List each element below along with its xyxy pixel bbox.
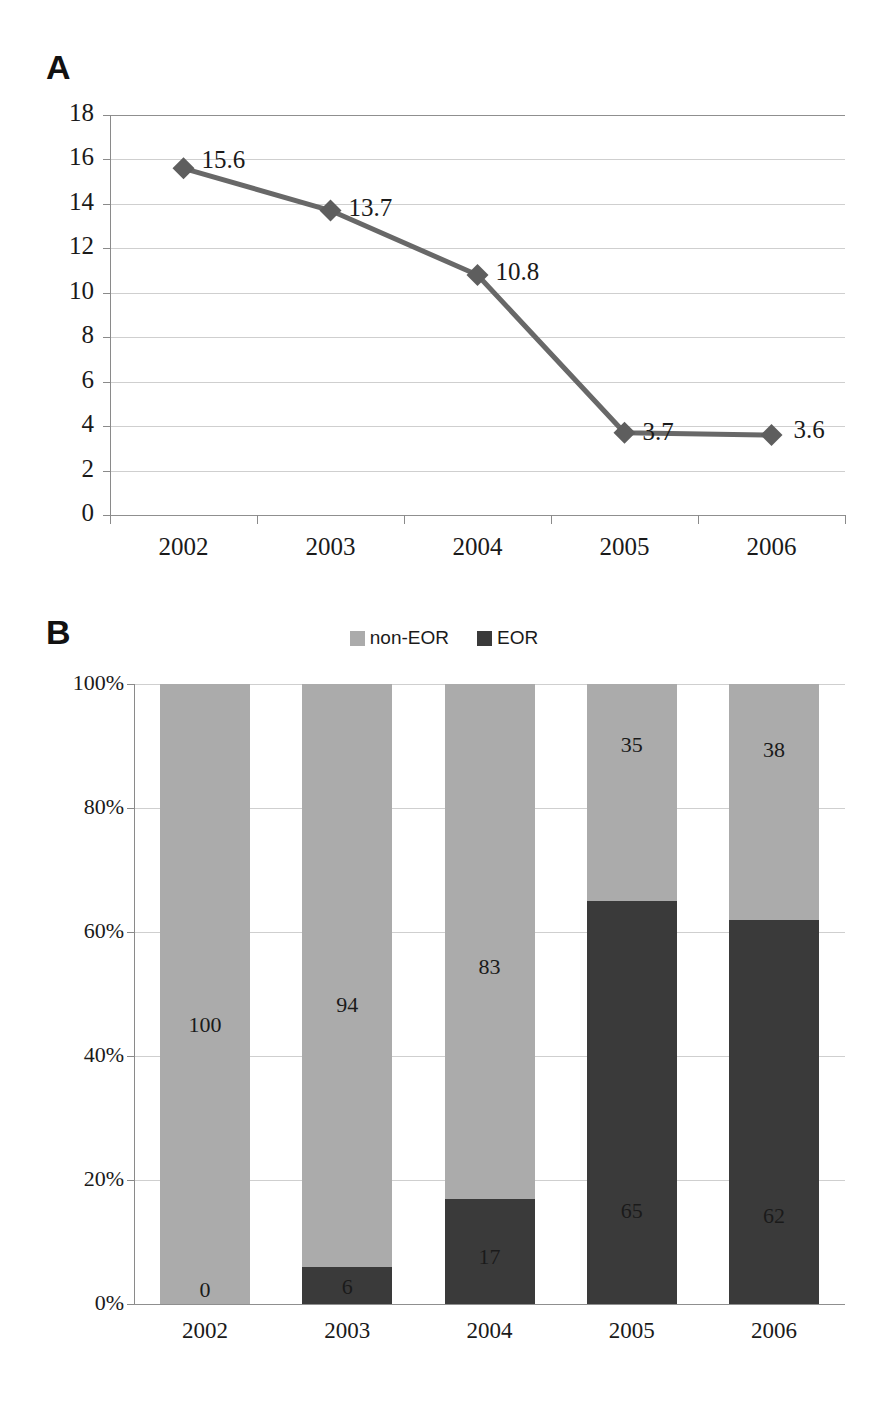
panel-a-polyline (184, 168, 772, 435)
panel-a-letter: A (46, 48, 71, 87)
legend-item-non-eor: non-EOR (350, 627, 449, 649)
panel-b-y-tick-label: 100% (38, 670, 124, 696)
panel-b-gridline (134, 1304, 845, 1305)
panel-b-y-tick-mark (127, 1304, 134, 1305)
panel-b-y-tick-label: 40% (38, 1042, 124, 1068)
panel-b-y-tick-label: 0% (38, 1290, 124, 1316)
panel-a-point-label: 15.6 (202, 146, 246, 174)
panel-a-y-tick-mark (103, 293, 110, 294)
legend-swatch-non-eor (350, 631, 365, 646)
panel-a-x-tick-label: 2003 (251, 533, 411, 561)
panel-a-y-tick-mark (103, 515, 110, 516)
legend-swatch-eor (477, 631, 492, 646)
panel-b-label-eor: 65 (587, 1198, 677, 1224)
panel-b-legend: non-EOR EOR (0, 627, 888, 649)
panel-a-y-tick-label: 8 (32, 321, 94, 349)
panel-b-segment-non-eor[interactable] (587, 684, 677, 901)
panel-a-y-tick-mark (103, 382, 110, 383)
panel-b-y-tick-mark (127, 932, 134, 933)
panel-b-y-tick-label: 80% (38, 794, 124, 820)
panel-a-y-tick-label: 0 (32, 499, 94, 527)
panel-a-x-tick-mark (404, 515, 405, 524)
panel-b-y-tick-mark (127, 1056, 134, 1057)
panel-b-segment-non-eor[interactable] (160, 684, 250, 1304)
panel-a-y-tick-label: 16 (32, 143, 94, 171)
legend-label-non-eor: non-EOR (370, 627, 449, 649)
panel-b-label-non-eor: 38 (729, 737, 819, 763)
panel-b-label-eor: 17 (445, 1244, 535, 1270)
panel-a-data-point-marker (320, 200, 342, 222)
panel-b-y-tick-mark (127, 684, 134, 685)
panel-b-label-eor: 0 (160, 1277, 250, 1303)
panel-a-x-tick-mark (845, 515, 846, 524)
panel-a-y-tick-label: 4 (32, 410, 94, 438)
panel-b-label-non-eor: 83 (445, 954, 535, 980)
panel-b-segment-non-eor[interactable] (729, 684, 819, 920)
panel-a-point-label: 3.6 (794, 416, 825, 444)
panel-a-x-tick-label: 2004 (398, 533, 558, 561)
panel-a-x-tick-mark (698, 515, 699, 524)
panel-a-y-tick-mark (103, 337, 110, 338)
panel-a-x-tick-label: 2005 (545, 533, 705, 561)
panel-b-label-non-eor: 35 (587, 732, 677, 758)
panel-b-x-tick-label: 2002 (134, 1318, 276, 1344)
panel-a-line-chart: A Time (h) 024681012141618 15.613.710.83… (0, 0, 888, 595)
panel-b-segment-eor[interactable] (729, 920, 819, 1304)
panel-b-bar-column[interactable]: 1000 (160, 684, 250, 1304)
panel-a-data-point-marker (761, 424, 783, 446)
panel-a-x-tick-mark (110, 515, 111, 524)
legend-label-eor: EOR (497, 627, 538, 649)
panel-b-x-tick-label: 2005 (561, 1318, 703, 1344)
panel-b-label-eor: 6 (302, 1274, 392, 1300)
legend-item-eor: EOR (477, 627, 538, 649)
panel-a-y-tick-label: 14 (32, 188, 94, 216)
panel-b-label-non-eor: 94 (302, 992, 392, 1018)
panel-b-y-axis-line (134, 684, 135, 1304)
panel-b-y-tick-label: 60% (38, 918, 124, 944)
panel-b-bar-column[interactable]: 3565 (587, 684, 677, 1304)
panel-a-data-point-marker (173, 157, 195, 179)
panel-a-y-tick-label: 18 (32, 99, 94, 127)
panel-a-y-tick-label: 12 (32, 232, 94, 260)
panel-a-point-label: 13.7 (349, 194, 393, 222)
panel-a-series-time (110, 115, 845, 515)
panel-b-y-tick-mark (127, 1180, 134, 1181)
panel-a-y-tick-mark (103, 426, 110, 427)
panel-b-x-tick-label: 2003 (276, 1318, 418, 1344)
panel-b-plot-area: 1000946831735653862 (134, 684, 845, 1304)
panel-a-y-tick-mark (103, 159, 110, 160)
panel-a-y-tick-mark (103, 471, 110, 472)
panel-a-y-tick-label: 2 (32, 455, 94, 483)
panel-a-y-tick-mark (103, 115, 110, 116)
panel-a-y-tick-mark (103, 204, 110, 205)
panel-b-label-eor: 62 (729, 1203, 819, 1229)
panel-a-x-tick-label: 2006 (692, 533, 852, 561)
panel-a-x-tick-mark (257, 515, 258, 524)
panel-b-x-tick-label: 2006 (703, 1318, 845, 1344)
panel-b-segment-eor[interactable] (587, 901, 677, 1304)
panel-b-label-non-eor: 100 (160, 1012, 250, 1038)
panel-b-bar-column[interactable]: 3862 (729, 684, 819, 1304)
panel-a-x-tick-mark (551, 515, 552, 524)
panel-b-stacked-bar-chart: B non-EOR EOR % Fontan patients 10009468… (0, 595, 888, 1415)
panel-b-x-tick-label: 2004 (419, 1318, 561, 1344)
panel-a-y-tick-mark (103, 248, 110, 249)
panel-a-x-tick-label: 2002 (104, 533, 264, 561)
panel-b-segment-non-eor[interactable] (445, 684, 535, 1199)
panel-b-segment-non-eor[interactable] (302, 684, 392, 1267)
panel-a-gridline (110, 515, 845, 516)
panel-a-point-label: 10.8 (496, 258, 540, 286)
panel-a-y-tick-label: 10 (32, 277, 94, 305)
panel-b-y-tick-mark (127, 808, 134, 809)
panel-a-point-label: 3.7 (643, 418, 674, 446)
panel-b-y-tick-label: 20% (38, 1166, 124, 1192)
panel-a-y-tick-label: 6 (32, 366, 94, 394)
panel-b-bar-column[interactable]: 8317 (445, 684, 535, 1304)
panel-b-bar-column[interactable]: 946 (302, 684, 392, 1304)
